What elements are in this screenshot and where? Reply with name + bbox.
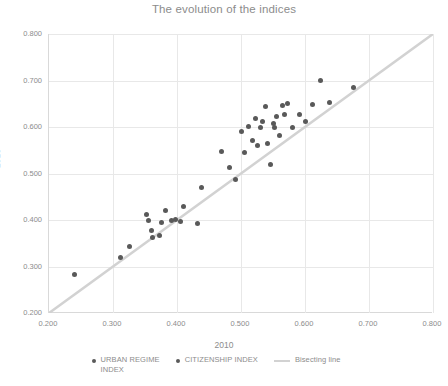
x-tick-label: 0.500 xyxy=(220,319,260,328)
plot-area xyxy=(48,34,432,313)
legend-dot-swatch xyxy=(92,359,96,363)
legend-item[interactable]: URBAN REGIME INDEX xyxy=(92,355,160,375)
data-point xyxy=(268,162,273,167)
data-point xyxy=(258,125,263,130)
legend-label: URBAN REGIME INDEX xyxy=(101,355,160,375)
data-point xyxy=(149,228,154,233)
legend-item[interactable]: Bisecting line xyxy=(274,355,341,365)
y-tick-label: 0.300 xyxy=(8,262,42,271)
data-point xyxy=(290,125,295,130)
y-tick-label: 0.600 xyxy=(8,122,42,131)
x-tick-label: 0.300 xyxy=(92,319,132,328)
chart-title: The evolution of the indices xyxy=(0,3,448,15)
data-point xyxy=(157,233,162,238)
data-point xyxy=(250,138,255,143)
x-axis-label: 2010 xyxy=(0,340,448,350)
x-tick-label: 0.600 xyxy=(284,319,324,328)
data-point xyxy=(242,150,247,155)
data-point xyxy=(297,112,302,117)
data-point xyxy=(255,143,260,148)
bisecting-line xyxy=(49,34,433,313)
y-tick-label: 0.400 xyxy=(8,215,42,224)
data-point xyxy=(239,129,244,134)
data-point xyxy=(318,78,323,83)
x-tick-label: 0.800 xyxy=(412,319,448,328)
data-point xyxy=(351,85,356,90)
data-point xyxy=(181,204,186,209)
data-point xyxy=(159,220,164,225)
y-axis-label: 2016 xyxy=(0,149,2,168)
gridline-vertical xyxy=(433,34,434,313)
data-point xyxy=(277,133,282,138)
x-tick-label: 0.200 xyxy=(28,319,68,328)
y-tick-label: 0.800 xyxy=(8,29,42,38)
x-tick-label: 0.700 xyxy=(348,319,388,328)
data-point xyxy=(263,104,268,109)
data-point xyxy=(285,101,290,106)
legend-label: Bisecting line xyxy=(295,355,341,365)
legend-label: CITIZENSHIP INDEX xyxy=(185,355,258,365)
data-point xyxy=(280,103,285,108)
data-point xyxy=(303,119,308,124)
y-tick-label: 0.500 xyxy=(8,169,42,178)
legend-dot-swatch xyxy=(176,359,180,363)
scatter-chart: The evolution of the indices 2016 2010 0… xyxy=(0,0,448,386)
data-point xyxy=(246,124,251,129)
y-tick-label: 0.200 xyxy=(8,308,42,317)
legend-item[interactable]: CITIZENSHIP INDEX xyxy=(176,355,258,365)
data-point xyxy=(118,255,123,260)
data-point xyxy=(127,244,132,249)
x-tick-label: 0.400 xyxy=(156,319,196,328)
y-tick-label: 0.700 xyxy=(8,76,42,85)
data-point xyxy=(253,116,258,121)
legend-line-swatch xyxy=(274,360,290,362)
data-point xyxy=(144,212,149,217)
chart-legend: URBAN REGIME INDEXCITIZENSHIP INDEXBisec… xyxy=(0,355,448,375)
data-point xyxy=(199,185,204,190)
